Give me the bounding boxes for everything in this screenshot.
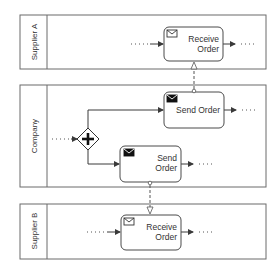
pool-supplier-a[interactable]: Supplier A bbox=[20, 15, 266, 69]
task-receive-order-a[interactable]: Receive Order bbox=[164, 27, 223, 61]
task-label-line2: Order bbox=[197, 44, 219, 54]
task-label-line2: Order bbox=[155, 232, 177, 242]
task-label-line1: Send bbox=[157, 153, 177, 163]
task-label-line1: Send Order bbox=[176, 105, 220, 115]
pool-label-company: Company bbox=[30, 119, 39, 153]
envelope-outline-icon bbox=[124, 218, 134, 225]
bpmn-diagram: Supplier A Company Supplier B Receive Or… bbox=[0, 0, 279, 271]
envelope-filled-icon bbox=[167, 95, 177, 102]
task-send-order-bottom[interactable]: Send Order bbox=[120, 146, 181, 182]
pool-label-supplier-a: Supplier A bbox=[30, 23, 39, 60]
envelope-outline-icon bbox=[167, 30, 177, 37]
task-label-line1: Receive bbox=[146, 222, 177, 232]
pool-label-supplier-b: Supplier B bbox=[30, 213, 39, 250]
envelope-filled-icon bbox=[124, 149, 134, 156]
task-label-line1: Receive bbox=[188, 34, 219, 44]
task-label-line2: Order bbox=[155, 163, 177, 173]
task-receive-order-b[interactable]: Receive Order bbox=[121, 215, 181, 250]
task-send-order-top[interactable]: Send Order bbox=[164, 92, 224, 128]
